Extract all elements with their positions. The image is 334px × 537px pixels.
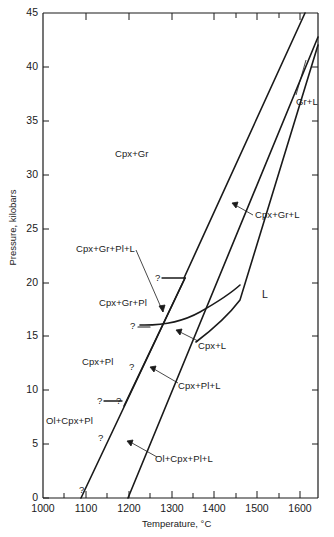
x-tick-label: 1000 [28, 502, 58, 514]
y-tick-label: 45 [16, 6, 38, 18]
y-tick-label: 5 [16, 437, 38, 449]
y-tick-label: 40 [16, 60, 38, 72]
field-label-gr-l: Gr+L [296, 96, 318, 107]
cpx-gr-pl-curve [140, 285, 240, 325]
x-axis-title: Temperature, °C [142, 518, 211, 529]
uncertainty-mark: ? [98, 432, 103, 443]
uncertainty-mark: ? [79, 484, 84, 495]
x-tick-label: 1400 [199, 502, 229, 514]
x-tick-label: 1600 [285, 502, 315, 514]
field-label-cpx-l: Cpx+L [198, 340, 226, 351]
leader-lines [127, 60, 306, 457]
x-tick-label: 1500 [242, 502, 272, 514]
x-tick-label: 1300 [157, 502, 187, 514]
y-axis-title: Pressure, kilobars [7, 183, 18, 273]
y-tick-label: 20 [16, 276, 38, 288]
y-tick-label: 25 [16, 222, 38, 234]
x-tick-label: 1200 [114, 502, 144, 514]
field-label-cpx-gr: Cpx+Gr [115, 148, 149, 159]
liquidus-line [128, 37, 318, 498]
y-tick-label: 35 [16, 114, 38, 126]
field-label-cpx-pl: Cpx+Pl [82, 356, 114, 367]
cpx-gr-l-lower-line [196, 45, 318, 342]
y-tick-label: 15 [16, 329, 38, 341]
x-ticks [64, 13, 300, 498]
field-label-cpx-gr-pl: Cpx+Gr+Pl [99, 297, 147, 308]
x-tick-label: 1100 [71, 502, 101, 514]
field-label-cpx-pl-l: Cpx+Pl+L [178, 380, 221, 391]
field-label-ol-cpx-pl: Ol+Cpx+Pl [46, 415, 93, 426]
field-label-ol-cpx-pl-l: Ol+Cpx+Pl+L [155, 453, 213, 464]
uncertainty-mark: ? [129, 361, 134, 372]
uncertainty-mark: ? [130, 320, 135, 331]
y-tick-label: 30 [16, 168, 38, 180]
y-tick-label: 10 [16, 383, 38, 395]
field-label-cpx-gr-pl-l: Cpx+Gr+Pl+L [76, 243, 135, 254]
y-ticks [43, 67, 318, 498]
field-label-cpx-gr-l: Cpx+Gr+L [255, 209, 300, 220]
phase-boundaries [81, 13, 318, 498]
field-label-l: L [262, 288, 268, 300]
uncertainty-mark: ? [116, 395, 121, 406]
uncertainty-mark: ? [155, 272, 160, 283]
uncertainty-mark: ? [97, 395, 102, 406]
